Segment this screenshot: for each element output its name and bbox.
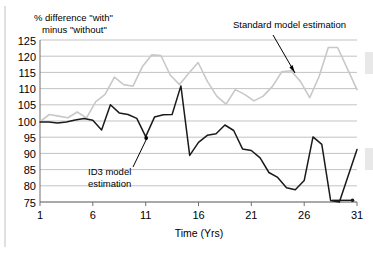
y-tick-label-120: 120 [18, 51, 36, 63]
y-tick-label-90: 90 [24, 148, 36, 160]
id3-model-annotation-arrowhead [144, 136, 148, 140]
x-tick-label-31: 31 [351, 209, 363, 221]
y-tick-label-100: 100 [18, 116, 36, 128]
x-tick-label-21: 21 [245, 209, 257, 221]
id3-model-annotation-text-line2: estimation [88, 178, 131, 189]
id3-model-annotation-text-line1: ID3 model [88, 166, 131, 177]
y-tick-label-75: 75 [24, 197, 36, 209]
y-tick-label-125: 125 [18, 35, 36, 47]
y-tick-label-115: 115 [18, 67, 36, 79]
y-tick-label-85: 85 [24, 164, 36, 176]
right-edge-artifact-bottom [365, 148, 373, 170]
chart-svg: 125 120 115 110 105 100 95 90 85 80 75 1… [0, 0, 373, 253]
x-tick-label-16: 16 [192, 209, 204, 221]
chart-figure: 125 120 115 110 105 100 95 90 85 80 75 1… [0, 0, 373, 253]
chart-title-line1: % difference "with" [34, 12, 113, 23]
id3-baseline-marker-dot [351, 199, 355, 203]
standard-model-annotation-text: Standard model estimation [233, 19, 346, 30]
y-tick-label-110: 110 [18, 83, 36, 95]
chart-title-line2: minus "without" [42, 24, 107, 35]
y-tick-label-80: 80 [24, 180, 36, 192]
x-tick-label-11: 11 [140, 209, 151, 221]
x-tick-label-26: 26 [298, 209, 310, 221]
x-axis-label: Time (Yrs) [175, 227, 224, 239]
y-tick-label-105: 105 [18, 99, 36, 111]
y-tick-label-95: 95 [24, 132, 36, 144]
x-tick-label-6: 6 [90, 209, 96, 221]
right-edge-artifact-top [365, 52, 373, 74]
x-tick-label-1: 1 [37, 209, 43, 221]
